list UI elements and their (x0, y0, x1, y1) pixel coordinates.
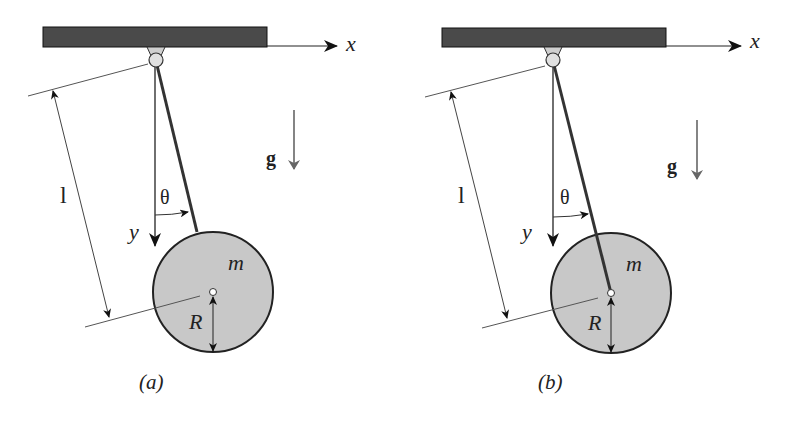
radius-label: R (189, 311, 202, 333)
panel-caption: (b) (538, 372, 563, 393)
disk-center-point (608, 290, 615, 297)
disk-center-point (210, 289, 217, 296)
theta-angle-arrow (155, 212, 188, 215)
length-extension-top (28, 64, 148, 96)
length-label: l (60, 183, 67, 207)
theta-label: θ (560, 187, 570, 207)
pivot-pin (546, 53, 560, 67)
gravity-label: g (667, 156, 677, 176)
panel-caption: (a) (139, 372, 164, 393)
ceiling-bar (442, 28, 666, 47)
theta-label: θ (160, 187, 170, 207)
panel-b (425, 28, 741, 353)
mass-label: m (228, 252, 244, 274)
y-axis-label: y (522, 221, 532, 243)
mass-label: m (626, 253, 642, 275)
pendulum-diagram-svg (0, 0, 790, 422)
x-axis-label: x (750, 30, 760, 52)
length-label: l (458, 183, 465, 207)
pendulum-figure: x g l θ y m R (a) x g l θ y m R (b) (0, 0, 790, 422)
gravity-label: g (266, 148, 276, 168)
pivot-pin (149, 53, 163, 67)
ceiling-bar (43, 27, 267, 47)
y-axis-label: y (129, 221, 139, 243)
length-extension-top (425, 66, 545, 97)
radius-label: R (588, 312, 601, 334)
panel-a (28, 27, 337, 352)
length-dimension-arrow-down (478, 200, 507, 318)
x-axis-label: x (346, 33, 356, 55)
theta-angle-arrow (553, 214, 588, 217)
length-dimension-arrow-down (80, 200, 109, 317)
